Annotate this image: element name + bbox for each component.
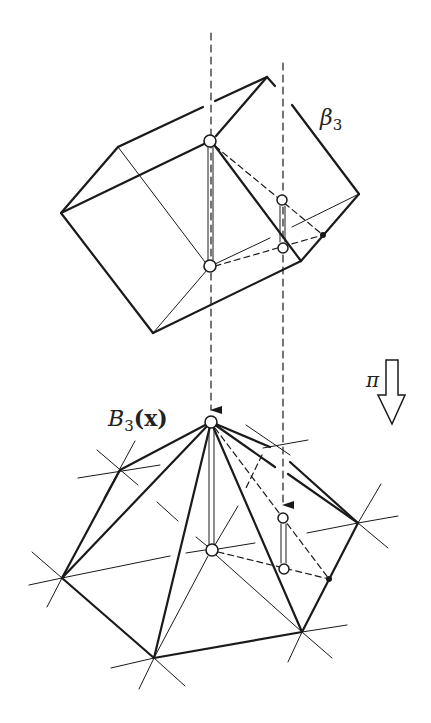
proj-inner-center-right-a <box>218 543 255 549</box>
proj-node-small-bottom <box>279 564 289 574</box>
proj-inner-left-center-a <box>62 556 170 578</box>
cube-edge-top-left <box>61 107 203 213</box>
diagram-canvas: β3 π <box>0 0 431 723</box>
proj-inner-right-a <box>307 523 358 533</box>
cube-node-top <box>204 135 216 147</box>
cube-node-small-top <box>277 195 287 205</box>
cube-edge-left-front <box>61 144 204 213</box>
proj-edge-apex-right-b <box>288 474 358 523</box>
cube-inner-edge-3 <box>215 238 270 264</box>
pi-label: π <box>365 368 380 392</box>
cube-node-bottom <box>204 260 216 272</box>
cube-edge-right-down <box>301 194 359 261</box>
cube-edge-peak-to-node <box>216 77 267 136</box>
b3x-label: B3(x) <box>107 405 168 435</box>
cube-inner-edge-2 <box>153 270 207 333</box>
cube-inner-edge-4 <box>292 194 359 227</box>
beta3-label: β3 <box>319 105 342 134</box>
cube-edge-left-down <box>61 213 153 333</box>
upper-cube <box>61 33 359 505</box>
proj-edge-lefttop-left <box>62 470 120 578</box>
proj-hidden-apex-dot <box>215 428 329 579</box>
cube-edge-peak-stub <box>267 77 275 86</box>
cube-node-black-dot <box>320 232 326 238</box>
proj-edge-left-bottom <box>62 578 154 658</box>
cube-edge-bottom <box>153 261 301 333</box>
projection-arrow: π <box>365 360 405 424</box>
proj-hidden-topright-center <box>245 455 262 490</box>
proj-edge-topright-right <box>290 462 358 523</box>
proj-inner-left-center-b <box>186 550 205 553</box>
cube-hidden-edge-1 <box>215 146 323 235</box>
proj-node-black-dot <box>326 576 332 582</box>
proj-inner-center-bottom <box>154 556 208 658</box>
cube-edge-top-gap <box>215 77 267 101</box>
proj-edge-apex-left <box>62 422 211 578</box>
cube-node-small-bottom <box>278 243 288 253</box>
proj-edge-bottom-bottomright <box>154 632 302 658</box>
proj-node-apex <box>205 416 217 428</box>
proj-node-small-top <box>278 513 288 523</box>
cube-hidden-edge-2 <box>215 235 323 266</box>
lower-projection <box>29 416 398 689</box>
proj-edge-apex-bottom <box>154 422 211 658</box>
proj-node-center <box>206 544 218 556</box>
hollow-down-arrow-icon <box>378 360 405 424</box>
